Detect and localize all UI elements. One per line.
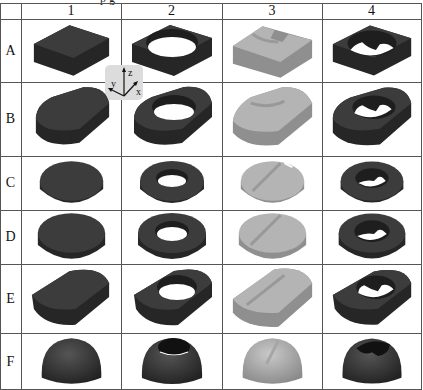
cell-a4-block-hole-channel [323, 20, 421, 82]
cell-d3-disc-channel [223, 211, 322, 264]
cell-e3-rounded-block-channel [223, 265, 322, 333]
cell-d4-disc-hole-channel [323, 211, 421, 264]
row-header-c: C [0, 175, 21, 191]
row-header-a: A [0, 43, 21, 59]
column-header-3: 3 [222, 3, 322, 19]
cell-b2-rounded-block-hole [122, 83, 222, 156]
cell-f4-dome-hole-channel [323, 334, 421, 389]
cell-d2-disc-hole [122, 211, 222, 264]
z-axis-label: z [128, 68, 132, 78]
cell-f2-dome-hole [122, 334, 222, 389]
column-header-1: 1 [21, 3, 121, 19]
cell-e1-rounded-block [22, 265, 121, 333]
row-header-e: E [0, 291, 21, 307]
cell-b1-rounded-block [22, 83, 121, 156]
cell-f3-dome-channel [223, 334, 322, 389]
cell-f1-dome [22, 334, 121, 389]
cell-c4-disc-hole-channel [323, 157, 421, 210]
grid-line [0, 3, 1, 390]
column-header-4: 4 [322, 3, 421, 19]
grid-line [421, 3, 422, 390]
cell-c3-disc-channel [223, 157, 322, 210]
cell-e2-rounded-block-hole [122, 265, 222, 333]
cell-e4-rounded-block-hole-channel [323, 265, 421, 333]
cell-b3-rounded-block-channel [223, 83, 322, 156]
row-header-f: F [0, 354, 21, 370]
cell-d1-disc [22, 211, 121, 264]
cell-c2-disc-hole [122, 157, 222, 210]
row-header-b: B [0, 111, 21, 127]
row-header-d: D [0, 229, 21, 245]
column-header-2: 2 [121, 3, 222, 19]
cell-c1-disc [22, 157, 121, 210]
cell-a3-block-with-channel [223, 20, 322, 82]
cell-b4-rounded-block-hole-channel [323, 83, 421, 156]
